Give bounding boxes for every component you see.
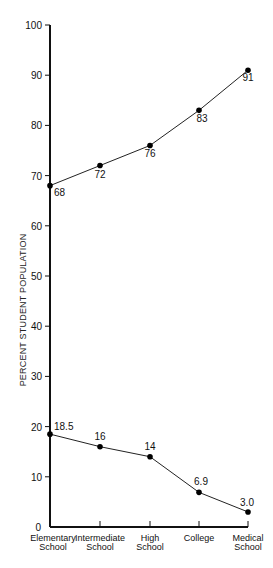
x-category-label: IntermediateSchool [75,533,125,552]
data-point [245,509,251,515]
y-tick-label: 50 [31,271,43,282]
data-point [97,444,103,450]
y-tick-label: 70 [31,171,43,182]
data-value-label: 68 [54,187,66,198]
data-point [97,163,103,169]
data-point [196,108,202,114]
y-axis-label: PERCENT STUDENT POPULATION [18,234,28,387]
line-chart: 0102030405060708090100 ElementarySchoolI… [0,0,273,568]
data-point [47,183,53,189]
y-tick-label: 10 [31,472,43,483]
data-point [147,143,153,149]
data-value-label: 18.5 [54,421,74,432]
x-category-label: ElementarySchool [30,533,76,552]
data-point [196,490,202,496]
data-value-label: 91 [242,72,254,83]
data-value-label: 72 [94,169,106,180]
data-value-label: 83 [196,113,208,124]
y-tick-label: 80 [31,120,43,131]
data-point [47,431,53,437]
y-tick-label: 100 [25,20,42,31]
data-point [147,454,153,460]
y-tick-label: 90 [31,70,43,81]
x-category-label: College [184,533,215,543]
x-category-label: HighSchool [136,533,164,552]
data-value-label: 76 [144,148,156,159]
data-value-label: 14 [144,441,156,452]
data-value-label: 16 [94,431,106,442]
series-group: 687276839118.516146.93.0 [47,67,254,514]
y-tick-label: 20 [31,422,43,433]
y-tick-label: 30 [31,371,43,382]
y-tick-label: 60 [31,221,43,232]
x-axis: ElementarySchoolIntermediateSchoolHighSc… [30,521,263,552]
data-value-label: 6.9 [194,476,208,487]
y-axis: 0102030405060708090100 [25,20,50,533]
series-line [50,70,248,185]
y-tick-label: 0 [35,522,41,533]
y-tick-label: 40 [31,321,43,332]
data-value-label: 3.0 [240,497,254,508]
x-category-label: MedicalSchool [232,533,263,552]
